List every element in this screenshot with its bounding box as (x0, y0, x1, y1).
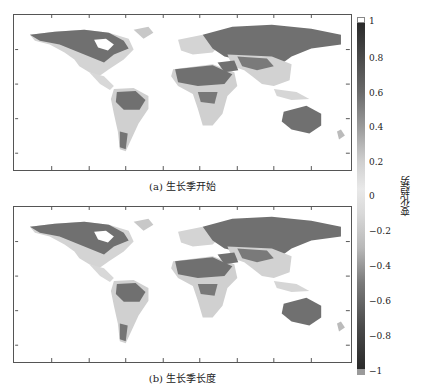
colorbar-tick: −0.6 (369, 296, 391, 306)
colorbar-gradient (357, 23, 365, 369)
colorbar-tick: −0.4 (369, 261, 391, 271)
colorbar-tick: 0 (369, 191, 375, 201)
colorbar-tick: 0.4 (369, 122, 383, 132)
world-map-b (14, 207, 351, 362)
map-panel-growing-season-length (13, 206, 352, 363)
colorbar-tick: 1 (369, 16, 375, 26)
colorbar-tick: 0.8 (369, 53, 383, 63)
caption-a: (a) 生长季开始 (0, 178, 365, 193)
colorbar-label: 变化趋势 (398, 176, 413, 216)
colorbar-tick: −1 (369, 366, 382, 376)
world-map-a (14, 15, 351, 170)
caption-b: (b) 生长季长度 (0, 370, 365, 385)
colorbar-tick: −0.2 (369, 226, 391, 236)
colorbar-tick: 0.2 (369, 157, 383, 167)
colorbar-tick: −0.8 (369, 331, 391, 341)
colorbar (357, 17, 365, 375)
colorbar-tick: 0.6 (369, 88, 383, 98)
colorbar-overflow-bottom (357, 369, 365, 375)
map-panel-growing-season-start (13, 14, 352, 171)
